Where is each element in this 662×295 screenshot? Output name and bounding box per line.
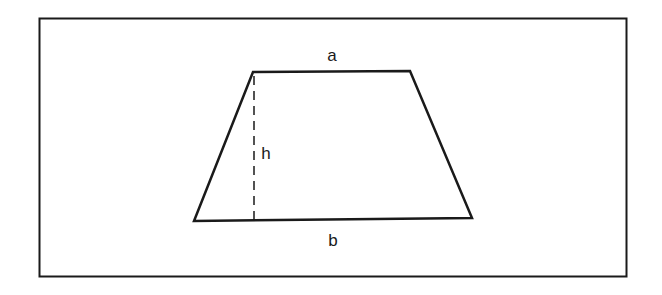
label-a: a — [327, 46, 337, 65]
trapezoid-shape — [194, 71, 472, 221]
trapezoid-diagram: a h b — [0, 0, 662, 295]
label-b: b — [328, 231, 337, 250]
label-h: h — [261, 144, 270, 163]
